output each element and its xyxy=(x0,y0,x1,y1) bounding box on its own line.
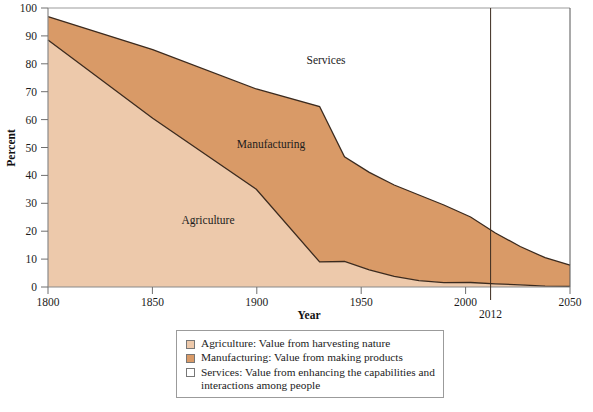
y-tick-label: 50 xyxy=(26,142,38,154)
legend-item-services: Services: Value from enhancing the capab… xyxy=(186,366,435,393)
y-tick-label: 90 xyxy=(26,30,38,42)
y-tick-label: 30 xyxy=(26,197,38,209)
series-label-manufacturing: Manufacturing xyxy=(237,138,306,151)
legend-swatch-agriculture xyxy=(186,340,195,349)
x-tick-label: 1900 xyxy=(245,296,268,308)
chart-legend: Agriculture: Value from harvesting natur… xyxy=(176,330,444,398)
x-axis-title: Year xyxy=(298,309,321,321)
y-tick-label: 0 xyxy=(31,281,37,293)
y-tick-label: 60 xyxy=(26,114,38,126)
legend-label-agriculture: Agriculture: Value from harvesting natur… xyxy=(201,337,390,350)
y-tick-label: 20 xyxy=(26,225,38,237)
y-axis-ticks xyxy=(41,8,48,287)
x-tick-label: 1850 xyxy=(141,296,164,308)
figure-container: 100 90 80 70 60 50 40 30 20 10 0 Percent… xyxy=(0,0,593,412)
legend-item-manufacturing: Manufacturing: Value from making product… xyxy=(186,351,435,364)
y-tick-label: 100 xyxy=(20,2,38,14)
x-axis-tick-labels: 1800 1850 1900 1950 2000 2050 xyxy=(37,296,582,308)
legend-item-agriculture: Agriculture: Value from harvesting natur… xyxy=(186,337,435,350)
legend-label-services: Services: Value from enhancing the capab… xyxy=(201,366,435,393)
y-tick-label: 70 xyxy=(26,86,38,98)
y-tick-label: 80 xyxy=(26,58,38,70)
x-tick-label: 1950 xyxy=(350,296,373,308)
year-2012-marker-label: 2012 xyxy=(479,308,502,320)
x-axis-ticks xyxy=(48,287,570,294)
legend-swatch-services xyxy=(186,368,195,377)
y-axis-tick-labels: 100 90 80 70 60 50 40 30 20 10 0 xyxy=(20,2,38,293)
x-tick-label: 1800 xyxy=(37,296,60,308)
x-tick-label: 2050 xyxy=(559,296,582,308)
legend-swatch-manufacturing xyxy=(186,354,195,363)
y-tick-label: 10 xyxy=(26,253,38,265)
series-label-agriculture: Agriculture xyxy=(181,214,234,227)
series-label-services: Services xyxy=(307,54,346,66)
x-tick-label: 2000 xyxy=(454,296,477,308)
legend-label-manufacturing: Manufacturing: Value from making product… xyxy=(201,351,403,364)
y-axis-title: Percent xyxy=(5,129,17,167)
y-tick-label: 40 xyxy=(26,169,38,181)
